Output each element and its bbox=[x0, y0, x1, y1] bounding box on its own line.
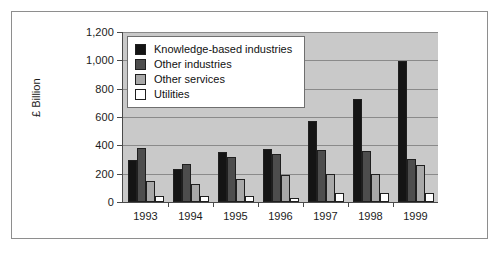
bar-group bbox=[303, 32, 348, 202]
chart-legend: Knowledge-based industriesOther industri… bbox=[127, 36, 305, 108]
bar bbox=[227, 157, 236, 202]
x-axis-label: 1998 bbox=[348, 210, 393, 222]
bar bbox=[425, 193, 434, 202]
bar bbox=[290, 198, 299, 202]
y-axis-tick-label: 1,200 bbox=[86, 26, 114, 38]
x-axis-tick bbox=[258, 202, 259, 207]
bar bbox=[146, 181, 155, 202]
legend-swatch bbox=[135, 89, 146, 100]
y-axis-tick-label: 0 bbox=[108, 196, 114, 208]
bar bbox=[380, 193, 389, 202]
bar bbox=[236, 179, 245, 202]
legend-item: Other services bbox=[135, 72, 298, 87]
bar bbox=[191, 184, 200, 202]
legend-label: Other services bbox=[154, 74, 225, 85]
bar bbox=[263, 149, 272, 202]
y-axis-tick-label: 1,000 bbox=[86, 54, 114, 66]
bar bbox=[281, 175, 290, 202]
bar bbox=[326, 174, 335, 202]
bar bbox=[308, 121, 317, 202]
legend-item: Knowledge-based industries bbox=[135, 42, 298, 57]
bar bbox=[128, 160, 137, 203]
chart-page: £ Billion 02004006008001,0001,200 199319… bbox=[0, 0, 501, 260]
legend-item: Utilities bbox=[135, 87, 298, 102]
legend-swatch bbox=[135, 44, 146, 55]
bar bbox=[398, 61, 407, 202]
legend-swatch bbox=[135, 74, 146, 85]
y-axis-title: £ Billion bbox=[30, 78, 42, 117]
x-axis-label: 1995 bbox=[213, 210, 258, 222]
bar-group bbox=[348, 32, 393, 202]
x-axis-tick bbox=[303, 202, 304, 207]
x-axis-tick bbox=[393, 202, 394, 207]
bar bbox=[353, 99, 362, 202]
bar bbox=[200, 196, 209, 202]
legend-label: Knowledge-based industries bbox=[154, 44, 292, 55]
bar bbox=[362, 151, 371, 202]
bar bbox=[272, 154, 281, 202]
y-axis-tick-label: 200 bbox=[95, 168, 114, 180]
bar bbox=[218, 152, 227, 202]
x-axis-label: 1996 bbox=[258, 210, 303, 222]
bar bbox=[317, 150, 326, 202]
x-axis-label: 1999 bbox=[393, 210, 438, 222]
y-axis-tick-label: 800 bbox=[95, 83, 114, 95]
bar bbox=[137, 148, 146, 202]
y-axis-tick-label: 600 bbox=[95, 111, 114, 123]
y-axis-tick bbox=[117, 202, 123, 203]
bar bbox=[335, 193, 344, 202]
legend-label: Other industries bbox=[154, 59, 232, 70]
legend-swatch bbox=[135, 59, 146, 70]
bar bbox=[371, 174, 380, 202]
x-axis-tick bbox=[213, 202, 214, 207]
bar bbox=[182, 164, 191, 202]
bar-chart: £ Billion 02004006008001,0001,200 199319… bbox=[0, 0, 501, 260]
bar bbox=[155, 196, 164, 202]
legend-label: Utilities bbox=[154, 89, 189, 100]
x-axis-label: 1994 bbox=[168, 210, 213, 222]
x-axis-tick bbox=[348, 202, 349, 207]
legend-item: Other industries bbox=[135, 57, 298, 72]
bar bbox=[416, 165, 425, 202]
y-axis-tick-label: 400 bbox=[95, 139, 114, 151]
x-axis-label: 1997 bbox=[303, 210, 348, 222]
bar bbox=[173, 169, 182, 202]
bar bbox=[245, 196, 254, 202]
bar bbox=[407, 159, 416, 202]
x-axis-label: 1993 bbox=[123, 210, 168, 222]
bar-group bbox=[393, 32, 438, 202]
x-axis-tick bbox=[168, 202, 169, 207]
